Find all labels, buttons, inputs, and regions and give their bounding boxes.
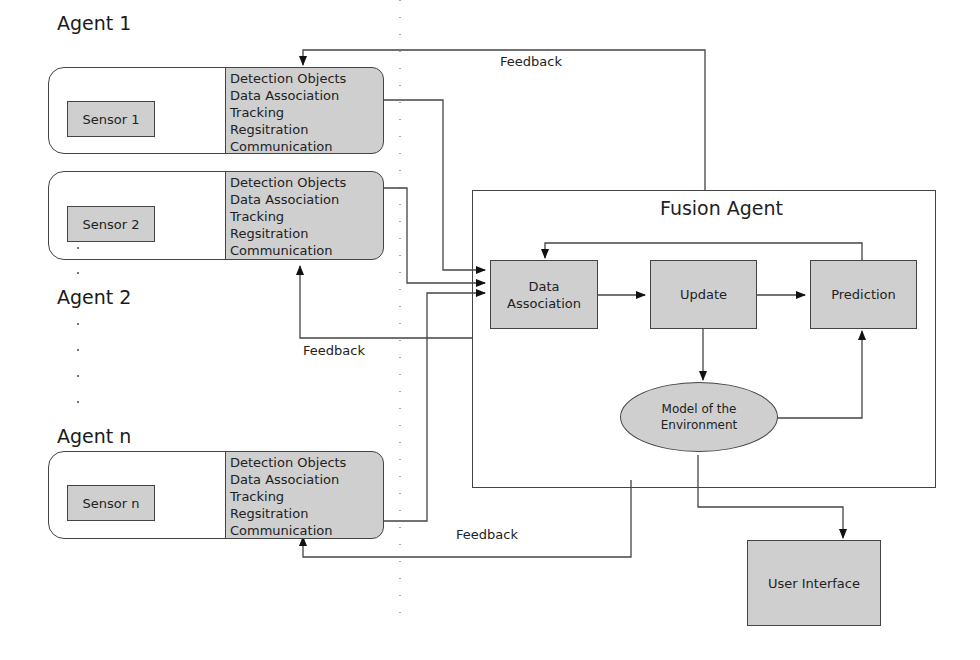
- function-item: Data Association: [230, 87, 379, 104]
- function-item: Tracking: [230, 104, 379, 121]
- ellipsis-dot: [77, 323, 79, 325]
- ellipsis-dot: [77, 349, 79, 351]
- agent-2-functions: Detection Objects Data Association Track…: [225, 171, 384, 260]
- function-item: Communication: [230, 138, 379, 155]
- feedback-label-middle: Feedback: [303, 343, 365, 358]
- feedback-label-top: Feedback: [500, 54, 562, 69]
- sensor-2: Sensor 2: [67, 206, 155, 242]
- prediction-block: Prediction: [810, 260, 917, 329]
- agent-n-title: Agent n: [57, 425, 131, 447]
- function-item: Communication: [230, 242, 379, 259]
- function-item: Tracking: [230, 488, 379, 505]
- agent-1-title: Agent 1: [57, 12, 131, 34]
- user-interface-block: User Interface: [747, 540, 881, 626]
- ellipsis-dot: [77, 375, 79, 377]
- data-association-block: Data Association: [490, 260, 598, 329]
- sensor-1: Sensor 1: [67, 101, 155, 137]
- sensor-n: Sensor n: [67, 485, 155, 521]
- ellipsis-dot: [77, 272, 79, 274]
- function-item: Tracking: [230, 208, 379, 225]
- update-block: Update: [650, 260, 757, 329]
- model-of-environment: Model of the Environment: [620, 382, 778, 452]
- agent-2-title: Agent 2: [57, 286, 131, 308]
- function-item: Detection Objects: [230, 174, 379, 191]
- fusion-agent-title: Fusion Agent: [660, 197, 783, 219]
- function-item: Communication: [230, 522, 379, 539]
- function-item: Regsitration: [230, 121, 379, 138]
- agent-n-functions: Detection Objects Data Association Track…: [225, 451, 384, 539]
- function-item: Detection Objects: [230, 70, 379, 87]
- function-item: Regsitration: [230, 505, 379, 522]
- function-item: Detection Objects: [230, 454, 379, 471]
- function-item: Regsitration: [230, 225, 379, 242]
- ellipsis-dot: [77, 401, 79, 403]
- function-item: Data Association: [230, 471, 379, 488]
- agent-1-functions: Detection Objects Data Association Track…: [225, 67, 384, 154]
- ellipsis-dot: [77, 247, 79, 249]
- function-item: Data Association: [230, 191, 379, 208]
- feedback-label-bottom: Feedback: [456, 527, 518, 542]
